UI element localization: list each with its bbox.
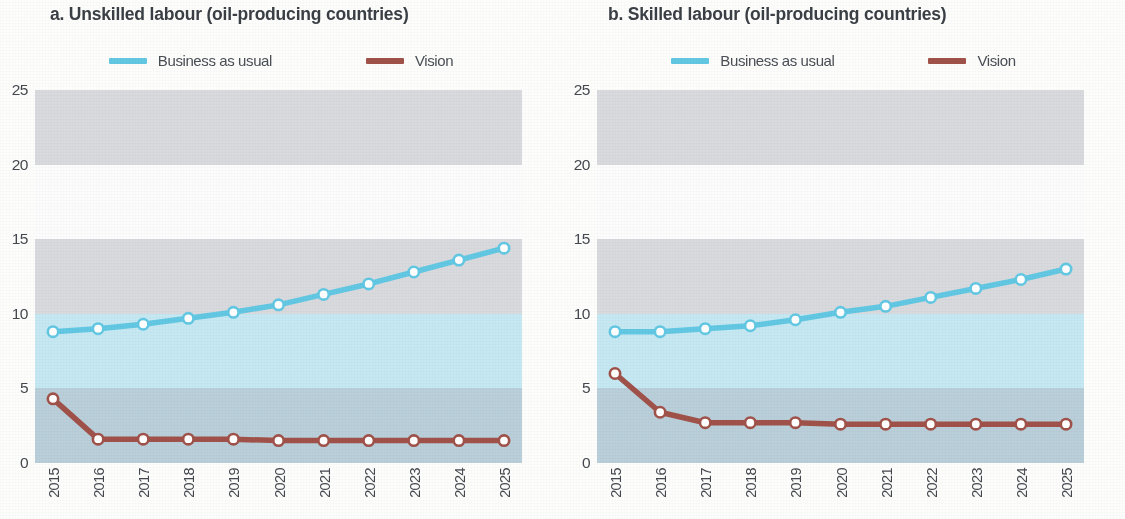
- data-point-2015: [610, 368, 620, 378]
- data-point-2020: [273, 300, 283, 310]
- panel-a-legend: Business as usual Vision: [0, 52, 562, 69]
- data-point-2019: [790, 418, 800, 428]
- legend-item-vision: Vision: [928, 52, 1015, 69]
- x-tick-2021: 2021: [317, 468, 333, 498]
- series-line: [615, 269, 1066, 332]
- data-point-2016: [655, 327, 665, 337]
- data-point-2023: [409, 267, 419, 277]
- legend-label-vision: Vision: [415, 52, 453, 69]
- x-tick-2016: 2016: [653, 468, 669, 498]
- y-tick-20: 20: [12, 156, 28, 174]
- figure-two-panel-line-charts: a. Unskilled labour (oil-producing count…: [0, 0, 1125, 519]
- panel-b-y-axis: 0510152025: [562, 90, 594, 463]
- x-tick-2018: 2018: [743, 468, 759, 498]
- data-point-2022: [926, 292, 936, 302]
- panel-b-plot-area: [597, 90, 1084, 463]
- x-tick-2024: 2024: [1014, 468, 1030, 498]
- panel-b-series-layer: [597, 90, 1084, 463]
- y-tick-20: 20: [574, 156, 590, 174]
- series-line: [53, 248, 504, 332]
- data-point-2022: [364, 435, 374, 445]
- x-tick-2015: 2015: [608, 468, 624, 498]
- panel-a-plot-area: [35, 90, 522, 463]
- data-point-2024: [454, 255, 464, 265]
- data-point-2019: [790, 315, 800, 325]
- x-tick-2024: 2024: [452, 468, 468, 498]
- legend-swatch-business-as-usual: [671, 58, 709, 64]
- legend-label-business-as-usual: Business as usual: [158, 52, 272, 69]
- panel-a: a. Unskilled labour (oil-producing count…: [0, 0, 562, 519]
- data-point-2019: [228, 434, 238, 444]
- panel-b: b. Skilled labour (oil-producing countri…: [562, 0, 1125, 519]
- data-point-2025: [1061, 264, 1071, 274]
- data-point-2017: [700, 324, 710, 334]
- data-point-2024: [1016, 274, 1026, 284]
- data-point-2021: [880, 301, 890, 311]
- series-business-as-usual: [48, 243, 509, 337]
- data-point-2025: [1061, 419, 1071, 429]
- data-point-2017: [700, 418, 710, 428]
- panel-a-y-axis: 0510152025: [0, 90, 32, 463]
- panel-b-title: b. Skilled labour (oil-producing countri…: [562, 4, 1125, 25]
- y-tick-5: 5: [582, 379, 590, 397]
- data-point-2021: [318, 289, 328, 299]
- y-tick-25: 25: [12, 81, 28, 99]
- x-tick-2025: 2025: [1059, 468, 1075, 498]
- y-tick-0: 0: [20, 454, 28, 472]
- y-tick-25: 25: [574, 81, 590, 99]
- data-point-2023: [971, 419, 981, 429]
- x-tick-2022: 2022: [924, 468, 940, 498]
- series-vision: [610, 368, 1071, 429]
- legend-label-vision: Vision: [977, 52, 1015, 69]
- data-point-2023: [409, 435, 419, 445]
- x-tick-2015: 2015: [46, 468, 62, 498]
- panel-b-x-axis: 2015201620172018201920202021202220232024…: [597, 468, 1084, 518]
- x-tick-2020: 2020: [834, 468, 850, 498]
- data-point-2016: [655, 407, 665, 417]
- x-tick-2019: 2019: [788, 468, 804, 498]
- data-point-2020: [273, 435, 283, 445]
- series-line: [615, 373, 1066, 424]
- x-tick-2022: 2022: [362, 468, 378, 498]
- x-tick-2023: 2023: [407, 468, 423, 498]
- y-tick-10: 10: [574, 305, 590, 323]
- x-tick-2019: 2019: [226, 468, 242, 498]
- panel-b-legend: Business as usual Vision: [562, 52, 1125, 69]
- legend-swatch-vision: [366, 58, 404, 64]
- x-tick-2021: 2021: [879, 468, 895, 498]
- y-tick-5: 5: [20, 379, 28, 397]
- data-point-2015: [610, 327, 620, 337]
- data-point-2024: [1016, 419, 1026, 429]
- legend-label-business-as-usual: Business as usual: [720, 52, 834, 69]
- series-business-as-usual: [610, 264, 1071, 337]
- y-tick-15: 15: [574, 230, 590, 248]
- legend-swatch-business-as-usual: [109, 58, 147, 64]
- x-tick-2016: 2016: [91, 468, 107, 498]
- data-point-2022: [926, 419, 936, 429]
- data-point-2020: [835, 419, 845, 429]
- x-tick-2017: 2017: [698, 468, 714, 498]
- legend-item-business-as-usual: Business as usual: [671, 52, 834, 69]
- y-tick-10: 10: [12, 305, 28, 323]
- data-point-2017: [138, 319, 148, 329]
- data-point-2024: [454, 435, 464, 445]
- y-tick-0: 0: [582, 454, 590, 472]
- legend-swatch-vision: [928, 58, 966, 64]
- data-point-2021: [880, 419, 890, 429]
- data-point-2018: [745, 321, 755, 331]
- data-point-2018: [745, 418, 755, 428]
- panel-a-title: a. Unskilled labour (oil-producing count…: [0, 4, 612, 25]
- data-point-2016: [93, 324, 103, 334]
- x-tick-2023: 2023: [969, 468, 985, 498]
- x-tick-2017: 2017: [136, 468, 152, 498]
- x-tick-2025: 2025: [497, 468, 513, 498]
- data-point-2017: [138, 434, 148, 444]
- data-point-2019: [228, 307, 238, 317]
- panel-a-series-layer: [35, 90, 522, 463]
- x-tick-2018: 2018: [181, 468, 197, 498]
- series-vision: [48, 394, 509, 446]
- data-point-2025: [499, 435, 509, 445]
- data-point-2018: [183, 434, 193, 444]
- panel-a-x-axis: 2015201620172018201920202021202220232024…: [35, 468, 522, 518]
- data-point-2015: [48, 394, 58, 404]
